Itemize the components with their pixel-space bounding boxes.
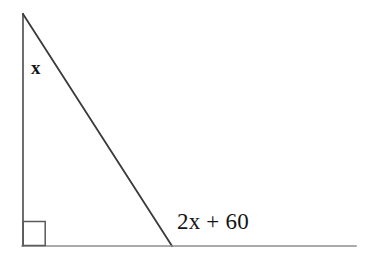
angle-label-x: x [31,58,41,77]
angle-label-exterior-expression: 2x + 60 [177,210,249,233]
right-angle-marker-icon [23,222,45,246]
triangle-hypotenuse [23,14,172,246]
figure-canvas: x 2x + 60 [0,0,370,263]
